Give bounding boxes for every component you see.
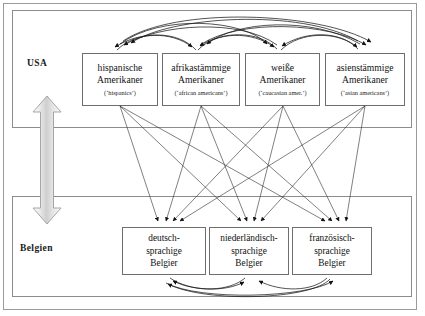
belgien-group-niederlaendisch-line3: Belgier xyxy=(235,257,262,269)
usa-group-hispanic-line1: hispanische xyxy=(98,62,143,74)
belgien-group-franzoesisch-line1: französisch- xyxy=(309,232,354,244)
usa-group-asian-line2: Amerikaner xyxy=(342,74,388,86)
belgien-group-deutsch-line1: deutsch- xyxy=(148,232,180,244)
usa-group-hispanic[interactable]: hispanische Amerikaner (‘hispanics’) xyxy=(82,53,158,106)
usa-group-hispanic-gloss: (‘hispanics’) xyxy=(104,88,136,97)
belgien-group-niederlaendisch[interactable]: niederländisch- sprachige Belgier xyxy=(209,227,289,275)
usa-group-african-line1: afrikastämmige xyxy=(171,62,231,74)
usa-group-hispanic-line2: Amerikaner xyxy=(97,74,143,86)
diagram-canvas: USA Belgien hispanische Amerikaner (‘his… xyxy=(0,0,425,316)
usa-group-african-line2: Amerikaner xyxy=(178,74,224,86)
belgien-group-deutsch[interactable]: deutsch- sprachige Belgier xyxy=(122,227,206,275)
usa-group-african[interactable]: afrikastämmige Amerikaner (‘african amer… xyxy=(162,53,240,106)
belgien-group-niederlaendisch-line2: sprachige xyxy=(231,245,267,257)
usa-group-white-line1: weiße xyxy=(271,62,294,74)
usa-group-white-gloss: (‘caucasian amer.’) xyxy=(258,88,306,97)
belgien-group-franzoesisch-line2: sprachige xyxy=(314,245,350,257)
usa-group-white[interactable]: weiße Amerikaner (‘caucasian amer.’) xyxy=(245,53,320,106)
belgien-group-deutsch-line2: sprachige xyxy=(146,245,182,257)
belgien-group-deutsch-line3: Belgier xyxy=(150,257,177,269)
usa-group-asian-gloss: (‘asian americans’) xyxy=(341,88,389,97)
usa-group-asian-line1: asienstämmige xyxy=(336,62,393,74)
usa-group-african-gloss: (‘african americans’) xyxy=(175,88,228,97)
belgien-group-franzoesisch-line3: Belgier xyxy=(318,257,345,269)
belgien-group-franzoesisch[interactable]: französisch- sprachige Belgier xyxy=(292,227,372,275)
belgien-group-niederlaendisch-line1: niederländisch- xyxy=(220,232,277,244)
usa-group-asian[interactable]: asienstämmige Amerikaner (‘asian america… xyxy=(325,53,405,106)
usa-group-white-line2: Amerikaner xyxy=(260,74,306,86)
vertical-double-arrow-icon xyxy=(33,96,61,224)
